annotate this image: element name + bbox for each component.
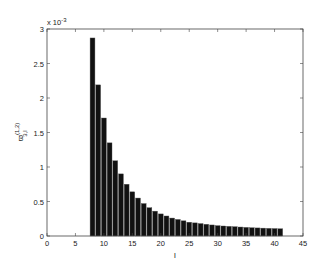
bar — [141, 204, 146, 236]
y-tick-label: 1 — [40, 163, 44, 172]
bar — [170, 218, 175, 236]
y-tick-label: 1.5 — [34, 129, 44, 138]
bar — [158, 214, 163, 236]
x-tick-label: 15 — [128, 239, 136, 248]
x-tick-label: 10 — [100, 239, 108, 248]
bar — [249, 228, 254, 236]
y-tick-label: 3 — [40, 25, 44, 34]
y-exponent-label: x 10-3 — [47, 17, 67, 27]
bar — [96, 85, 101, 236]
bar — [175, 219, 180, 236]
bar — [119, 174, 124, 236]
bar — [238, 227, 243, 236]
x-tick-label: 30 — [213, 239, 221, 248]
bar — [198, 224, 203, 236]
bar — [113, 161, 118, 236]
bar — [124, 184, 129, 236]
x-tick-label: 40 — [270, 239, 278, 248]
bar — [266, 228, 271, 236]
x-tick-label: 25 — [185, 239, 193, 248]
y-tick-label: 2.5 — [34, 60, 44, 69]
bar — [147, 208, 152, 236]
x-tick-label: 5 — [73, 239, 77, 248]
x-tick-label: 20 — [157, 239, 165, 248]
y-tick-label: 0 — [40, 232, 44, 241]
bar — [153, 211, 158, 236]
bar — [136, 198, 141, 236]
bar — [255, 228, 260, 236]
bar — [130, 192, 135, 236]
bar — [101, 118, 106, 236]
bar-series — [90, 38, 283, 236]
bar — [210, 225, 215, 236]
bar — [261, 228, 266, 236]
bar — [181, 221, 186, 236]
x-tick-label: 35 — [242, 239, 250, 248]
y-axis-label: ϖ(1,2)3,l — [14, 123, 28, 142]
x-axis-label: l — [174, 251, 176, 260]
y-tick-label: 0.5 — [34, 198, 44, 207]
bar-chart: 05101520253035404500.511.522.53 x 10-3 l… — [0, 0, 320, 269]
bar — [107, 143, 112, 236]
bar — [164, 216, 169, 236]
x-tick-label: 45 — [299, 239, 307, 248]
bar — [227, 226, 232, 236]
bar — [204, 224, 209, 236]
y-tick-label: 2 — [40, 94, 44, 103]
axes: 05101520253035404500.511.522.53 — [34, 25, 308, 248]
bar — [192, 223, 197, 236]
svg-text:ϖ(1,2)3,l: ϖ(1,2)3,l — [14, 123, 28, 142]
bar — [221, 226, 226, 236]
bar — [278, 229, 283, 236]
bar — [232, 227, 237, 236]
x-tick-label: 0 — [45, 239, 49, 248]
bar — [90, 38, 95, 236]
